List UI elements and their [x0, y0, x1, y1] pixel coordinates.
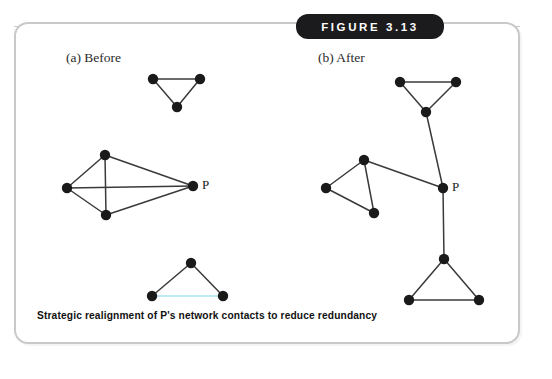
network-node [474, 295, 484, 305]
network-node [218, 291, 228, 301]
network-edge [364, 160, 374, 213]
network-node [147, 291, 157, 301]
network-edge [364, 160, 443, 188]
network-edge [153, 79, 177, 107]
network-edge [409, 259, 444, 300]
network-node [395, 77, 405, 87]
network-node-focal [438, 183, 448, 193]
network-node [100, 150, 110, 160]
network-edge [105, 155, 193, 186]
figure-caption: Strategic realignment of P's network con… [37, 310, 377, 321]
network-edge [105, 155, 106, 215]
network-edge [67, 188, 106, 215]
network-edge [67, 186, 193, 188]
network-edge [191, 263, 223, 296]
network-panel-b [321, 77, 484, 305]
network-node [421, 107, 431, 117]
network-node-focal [188, 181, 198, 191]
network-node [186, 258, 196, 268]
network-edge [67, 155, 105, 188]
network-edge [326, 160, 364, 188]
network-node-label-p: P [452, 179, 459, 195]
network-edge [444, 259, 479, 300]
network-node [62, 183, 72, 193]
network-node [195, 74, 205, 84]
network-edge [106, 186, 193, 215]
network-diagram-canvas [0, 0, 552, 379]
network-node [439, 254, 449, 264]
network-edge [426, 82, 456, 112]
network-node-label-p: P [202, 177, 209, 193]
network-node [101, 210, 111, 220]
network-edge [326, 188, 374, 213]
network-edge [443, 188, 444, 259]
figure-root: FIGURE 3.13 (a) Before (b) After Strateg… [0, 0, 552, 379]
network-node [369, 208, 379, 218]
network-node [148, 74, 158, 84]
network-node [404, 295, 414, 305]
network-edge [426, 112, 443, 188]
network-node [321, 183, 331, 193]
network-edge [152, 263, 191, 296]
network-edge [177, 79, 200, 107]
network-node [359, 155, 369, 165]
network-edge [400, 82, 426, 112]
network-node [451, 77, 461, 87]
network-node [172, 102, 182, 112]
